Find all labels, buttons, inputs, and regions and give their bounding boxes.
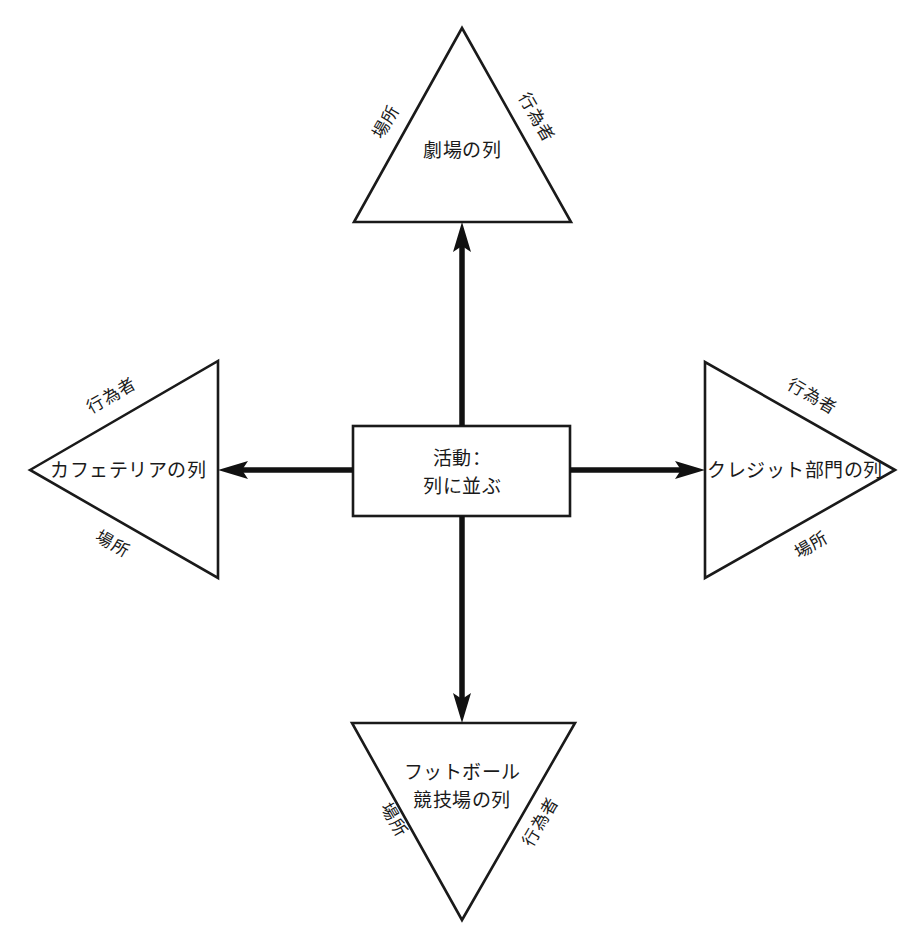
node-credit-department[interactable]: クレジット部門の列 行為者 場所 [705, 362, 895, 578]
node-credit-department-label: クレジット部門の列 [707, 459, 883, 481]
connector-center-to-theater [453, 222, 471, 426]
node-cafeteria-edge-label-bottom: 場所 [92, 526, 133, 561]
center-box-label-line1: 活動： [433, 447, 492, 469]
node-football-stadium[interactable]: フットボール 競技場の列 場所 行為者 [352, 723, 575, 920]
diagram-canvas: 劇場の列 場所 行為者 カフェテリアの列 行為者 場所 クレジット部門の列 行為… [0, 0, 920, 937]
connector-center-to-football-stadium [453, 516, 471, 723]
node-theater[interactable]: 劇場の列 場所 行為者 [354, 28, 571, 222]
center-box-shape [353, 426, 570, 516]
node-credit-department-edge-label-bottom: 場所 [791, 527, 832, 562]
node-theater-label: 劇場の列 [423, 139, 501, 161]
node-theater-edge-label-left: 場所 [368, 101, 403, 142]
node-football-stadium-label-line1: フットボール [404, 761, 521, 783]
center-box-label-line2: 列に並ぶ [423, 475, 501, 497]
node-cafeteria[interactable]: カフェテリアの列 行為者 場所 [30, 361, 218, 578]
diagram-root: 劇場の列 場所 行為者 カフェテリアの列 行為者 場所 クレジット部門の列 行為… [0, 0, 920, 937]
node-football-stadium-label-line2: 競技場の列 [413, 789, 511, 811]
node-cafeteria-label: カフェテリアの列 [50, 459, 206, 481]
connector-center-to-cafeteria [218, 461, 353, 479]
center-activity-box[interactable]: 活動： 列に並ぶ [353, 426, 570, 516]
connector-center-to-credit-department [570, 461, 705, 479]
